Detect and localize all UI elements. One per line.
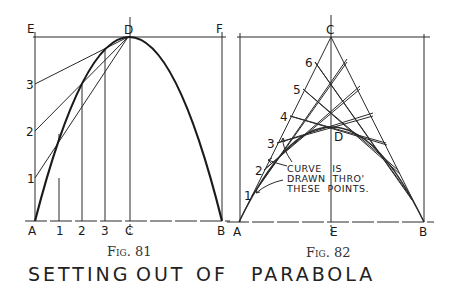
annotation-line-3: THESE POINTS.: [286, 183, 369, 194]
figure-82: C 6 5 4 3 2 1 D A E B CURVE IS DRAWN THR…: [227, 15, 434, 260]
label-c: C: [326, 23, 334, 37]
title-word-setting: SETTING: [28, 263, 130, 285]
label-e: E: [27, 22, 35, 36]
label-e: E: [330, 225, 338, 239]
label-mark-2: 2: [255, 164, 263, 178]
annotation-arrow-3: [256, 180, 283, 193]
figure-81: E D F 3 2 1 A 1 2 3 C B Fig. 81: [25, 17, 230, 259]
label-mark-1: 1: [244, 189, 252, 203]
label-side-1: 1: [27, 172, 35, 186]
label-base-1: 1: [56, 224, 64, 238]
title-word-parabola: PARABOLA: [251, 263, 375, 285]
label-b: B: [419, 225, 427, 239]
label-mark-4: 4: [280, 110, 288, 124]
title-word-of: OF: [196, 263, 228, 285]
label-d: D: [334, 130, 343, 144]
label-f: F: [216, 22, 223, 36]
label-mark-3: 3: [267, 137, 275, 151]
label-b: B: [217, 224, 225, 238]
label-a: A: [233, 225, 242, 239]
envelope-line-r4: [277, 116, 373, 143]
title-word-out: OUT: [136, 263, 185, 285]
main-title: SETTING OUT OF PARABOLA: [28, 263, 375, 285]
label-side-3: 3: [26, 78, 34, 92]
parabola-curve: [35, 37, 222, 221]
label-d: D: [124, 23, 133, 37]
diagram-canvas: E D F 3 2 1 A 1 2 3 C B Fig. 81: [0, 0, 457, 299]
caption-fig-82: Fig. 82: [306, 245, 351, 260]
label-base-2: 2: [78, 224, 86, 238]
label-a: A: [28, 224, 37, 238]
label-side-2: 2: [26, 125, 34, 139]
label-c: C: [125, 224, 133, 238]
ray-3: [35, 37, 128, 84]
label-mark-5: 5: [293, 83, 301, 97]
label-mark-6: 6: [305, 56, 313, 70]
caption-fig-81: Fig. 81: [107, 244, 152, 259]
label-base-3: 3: [101, 224, 109, 238]
